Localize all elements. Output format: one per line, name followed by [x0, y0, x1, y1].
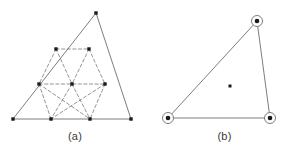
- lattice-node: [103, 82, 106, 85]
- triangle-outline-edge: [96, 13, 131, 119]
- triangle-outline-edge: [168, 21, 257, 118]
- circled-vertex-marker: [252, 16, 263, 27]
- lattice-node: [37, 82, 40, 85]
- lattice-dashed-edge: [72, 49, 89, 84]
- lattice-dashed-edge: [90, 84, 105, 119]
- lattice-dashed-edge: [51, 84, 105, 119]
- circled-vertex-marker: [163, 113, 174, 124]
- panel-a: (a): [0, 0, 150, 145]
- panel-a-caption: (a): [0, 130, 150, 143]
- figure-container: (a) (b): [0, 0, 299, 145]
- lattice-dashed-edge: [39, 49, 56, 84]
- vertex-dot: [166, 116, 171, 121]
- lattice-node: [94, 11, 97, 14]
- center-node: [229, 85, 232, 88]
- lattice-dashed-edge: [89, 49, 105, 84]
- lattice-dashed-edge: [72, 84, 90, 119]
- lattice-node: [88, 117, 91, 120]
- lattice-node: [49, 117, 52, 120]
- lattice-node: [70, 82, 73, 85]
- panel-b-diagram: [150, 0, 299, 125]
- vertex-dot: [268, 116, 273, 121]
- triangle-outline-edge: [257, 21, 270, 118]
- circled-vertex-marker: [265, 113, 276, 124]
- triangle-outline-edge: [13, 13, 96, 119]
- lattice-node: [11, 117, 14, 120]
- panel-b-caption: (b): [150, 130, 299, 143]
- vertex-dot: [255, 19, 260, 24]
- panel-a-diagram: [0, 0, 150, 125]
- lattice-node: [129, 117, 132, 120]
- lattice-node: [54, 47, 57, 50]
- lattice-dashed-edge: [39, 84, 90, 119]
- lattice-dashed-edge: [51, 84, 72, 119]
- lattice-dashed-edge: [39, 84, 51, 119]
- panel-b: (b): [150, 0, 299, 145]
- lattice-node: [87, 47, 90, 50]
